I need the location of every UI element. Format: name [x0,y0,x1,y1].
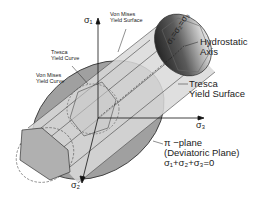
sigma3-label: σ₃ [196,121,205,130]
sigma1-label: σ₁ [84,16,93,25]
tresca-surface-label: Tresca Yield Surface [189,79,245,99]
von-mises-curve-line2: Yield Curve [36,79,64,85]
leader-pi-plane [153,141,163,144]
tresca-curve-line2: Yield Curve [51,56,79,62]
von-mises-curve-label: Von Mises Yield Curve [36,73,64,85]
von-mises-surface-label: Von Mises Yield Surface [110,12,143,24]
pi-plane-equation: σ₁+σ₂+σ₃=0 [164,158,240,168]
pi-plane-label: π −plane (Deviatoric Plane) σ₁+σ₂+σ₃=0 [164,138,240,168]
tresca-surface-line2: Yield Surface [189,89,245,99]
hydrostatic-line2: Axis [200,47,248,57]
von-mises-surface-line2: Yield Surface [110,18,143,24]
sigma2-label: σ₂ [71,181,80,190]
tresca-curve-label: Tresca Yield Curve [51,50,79,62]
leader-von-mises-surface [118,29,126,52]
sigma1-arrow [96,18,100,24]
yield-surface-diagram [0,0,268,204]
hydrostatic-axis-label: Hydrostatic Axis [200,37,248,57]
